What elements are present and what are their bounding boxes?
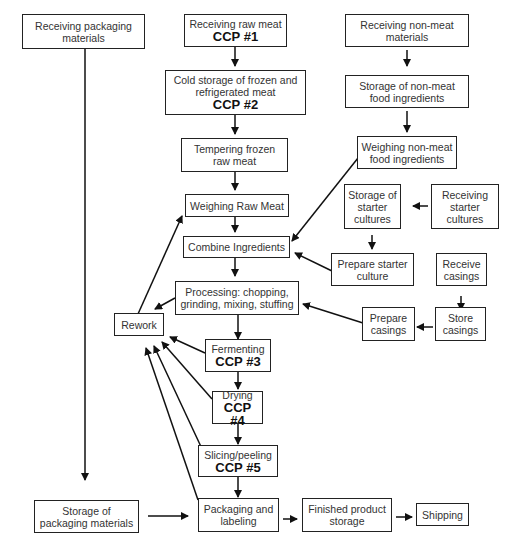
node-cold-storage: Cold storage of frozen and refrigerated …: [165, 70, 306, 115]
node-label: Weighing Raw Meat: [190, 200, 284, 212]
node-label: Rework: [121, 319, 157, 331]
node-receiving-non-meat: Receiving non-meat materials: [345, 14, 469, 47]
node-label: Storage of non-meat food ingredients: [349, 80, 465, 104]
node-label: Packaging and labeling: [202, 503, 275, 527]
ccp-badge: CCP #5: [215, 461, 260, 474]
node-receive-casings: Receive casings: [436, 253, 487, 286]
node-prepare-starter-culture: Prepare starter culture: [331, 253, 414, 286]
ccp-badge: CCP #1: [213, 30, 258, 43]
node-storage-packaging-materials: Storage of packaging materials: [34, 500, 139, 533]
node-storage-non-meat: Storage of non-meat food ingredients: [345, 75, 469, 108]
node-label: Store casings: [439, 312, 482, 336]
node-drying: Drying CCP #4: [212, 391, 263, 424]
node-combine-ingredients: Combine Ingredients: [183, 236, 290, 258]
node-label: Processing: chopping, grinding, mixing, …: [179, 286, 295, 310]
node-finished-product-storage: Finished product storage: [302, 498, 392, 532]
node-label: Weighing non-meat food ingredients: [361, 141, 453, 165]
node-weighing-raw-meat: Weighing Raw Meat: [185, 194, 289, 217]
ccp-badge: CCP #3: [215, 355, 260, 368]
node-slicing-peeling: Slicing/peeling CCP #5: [198, 445, 278, 477]
node-label: Cold storage of frozen and refrigerated …: [169, 74, 302, 98]
node-label: Prepare starter culture: [335, 258, 410, 282]
node-label: Slicing/peeling: [204, 449, 272, 461]
node-receiving-raw-meat: Receiving raw meat CCP #1: [184, 14, 287, 47]
node-receiving-packaging-materials: Receiving packaging materials: [22, 14, 145, 49]
node-packaging-labeling: Packaging and labeling: [198, 498, 279, 532]
node-tempering: Tempering frozen raw meat: [181, 138, 288, 172]
node-label: Finished product storage: [306, 503, 388, 527]
node-processing: Processing: chopping, grinding, mixing, …: [175, 281, 299, 315]
node-rework: Rework: [114, 313, 164, 336]
node-label: Receiving packaging materials: [26, 20, 141, 44]
node-store-casings: Store casings: [435, 307, 486, 341]
node-label: Storage of starter cultures: [348, 189, 397, 225]
node-weighing-non-meat: Weighing non-meat food ingredients: [357, 136, 457, 169]
node-storage-starter-cultures: Storage of starter cultures: [344, 184, 401, 229]
node-label: Combine Ingredients: [188, 241, 285, 253]
process-flow-diagram: Receiving packaging materials Receiving …: [0, 0, 514, 548]
node-label: Prepare casings: [366, 312, 411, 336]
node-label: Receive casings: [440, 258, 483, 282]
ccp-badge: CCP #2: [213, 98, 258, 111]
node-label: Drying: [222, 389, 252, 401]
node-label: Shipping: [422, 509, 463, 521]
node-receiving-starter-cultures: Receiving starter cultures: [431, 184, 499, 229]
node-label: Storage of packaging materials: [38, 505, 135, 529]
node-fermenting: Fermenting CCP #3: [205, 339, 271, 372]
ccp-badge: CCP #4: [216, 401, 259, 427]
node-label: Receiving starter cultures: [435, 189, 495, 225]
node-shipping: Shipping: [416, 503, 469, 526]
node-label: Receiving non-meat materials: [349, 19, 465, 43]
node-prepare-casings: Prepare casings: [362, 307, 415, 341]
node-label: Tempering frozen raw meat: [185, 143, 284, 167]
